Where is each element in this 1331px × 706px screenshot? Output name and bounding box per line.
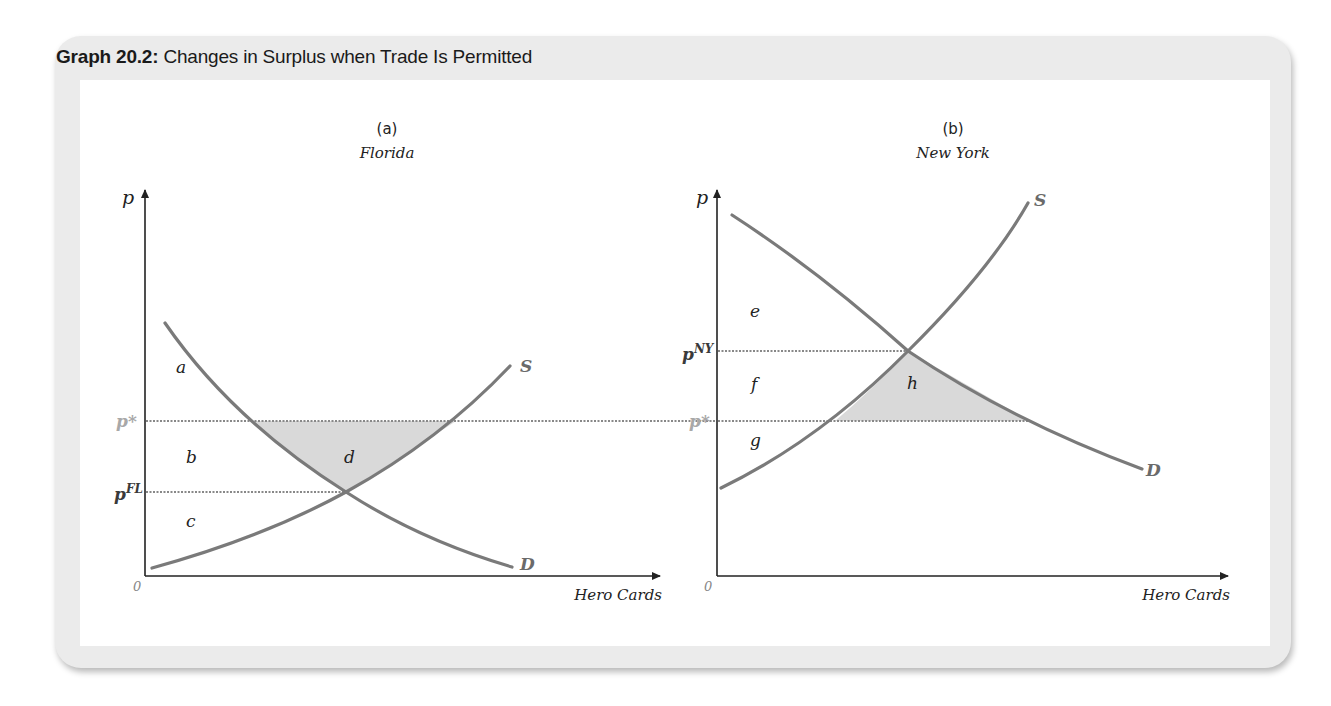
panel-a-subtitle: Florida: [359, 144, 415, 162]
panel-b-subtitle: New York: [915, 144, 990, 162]
panel-b-label: (b): [942, 120, 963, 138]
y-axis-label-fl: p: [122, 186, 134, 208]
region-d: d: [344, 447, 355, 467]
world-price-label-fl: p*: [116, 411, 137, 431]
demand-curve-ny: [732, 215, 1142, 469]
origin-label-ny: 0: [704, 579, 712, 594]
supply-label-ny: S: [1034, 190, 1046, 210]
region-h: h: [907, 373, 918, 393]
region-g: g: [750, 430, 761, 450]
autarky-price-label-ny: pNY: [682, 342, 715, 364]
autarky-price-label-fl: pFL: [114, 482, 143, 504]
panel-a-florida: (a) Florida p Hero Cards 0 S D p* pFL a …: [114, 120, 715, 604]
y-axis-label-ny: p: [696, 186, 708, 208]
demand-label-fl: D: [519, 554, 535, 574]
region-f: f: [749, 374, 760, 394]
panel-b-new-york: (b) New York p Hero Cards 0 S D pNY p* e…: [682, 120, 1230, 604]
chart-canvas: (a) Florida p Hero Cards 0 S D p* pFL a …: [0, 0, 1331, 706]
region-e: e: [750, 301, 760, 321]
panel-a-label: (a): [377, 120, 398, 138]
region-a: a: [176, 357, 186, 377]
supply-label-fl: S: [520, 356, 532, 376]
x-axis-label-ny: Hero Cards: [1141, 586, 1230, 604]
origin-label-fl: 0: [133, 579, 141, 594]
supply-curve-ny: [721, 203, 1028, 488]
shaded-region-h: [835, 351, 1030, 421]
region-b: b: [186, 447, 197, 467]
demand-label-ny: D: [1145, 460, 1161, 480]
x-axis-label-fl: Hero Cards: [573, 586, 662, 604]
region-c: c: [186, 511, 196, 531]
world-price-label-ny: p*: [689, 411, 710, 431]
